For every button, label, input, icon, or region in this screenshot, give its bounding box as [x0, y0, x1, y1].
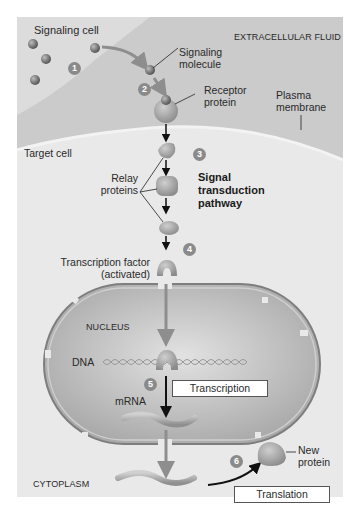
signal-transduction-label-1: Signal — [198, 171, 231, 184]
receptor-protein-label-1: Receptor — [204, 84, 247, 96]
new-protein-label-1: New — [298, 444, 319, 456]
step-badge-1: 1 — [68, 62, 81, 75]
step-badge-4: 4 — [183, 243, 196, 256]
signal-transduction-label-2: transduction — [198, 184, 265, 197]
cytoplasm-label: CYTOPLASM — [33, 478, 89, 490]
transcription-box: Transcription — [172, 380, 268, 397]
signal-transduction-label-3: pathway — [198, 197, 242, 210]
signaling-cell-label: Signaling cell — [34, 24, 99, 36]
signaling-molecule-label-2: molecule — [179, 58, 221, 70]
plasma-membrane-label-1: Plasma — [276, 89, 311, 101]
translation-box: Translation — [234, 486, 330, 503]
step-badge-5: 5 — [144, 378, 157, 391]
receptor-protein-label-2: protein — [204, 96, 236, 108]
target-cell-label: Target cell — [24, 147, 72, 159]
transcription-factor-label-1: Transcription factor — [40, 256, 150, 268]
new-protein-label-2: protein — [298, 456, 330, 468]
mrna-label: mRNA — [115, 395, 146, 407]
cell-signaling-diagram: Signaling cell EXTRACELLULAR FLUID Signa… — [0, 0, 352, 520]
step-badge-2: 2 — [138, 83, 151, 96]
plasma-membrane-label-2: membrane — [276, 101, 326, 113]
nucleus-label: NUCLEUS — [86, 321, 130, 333]
dna-label: DNA — [72, 356, 94, 368]
relay-proteins-label-2: proteins — [96, 184, 138, 196]
signaling-molecule-label-1: Signaling — [179, 46, 222, 58]
transcription-factor-label-2: (activated) — [40, 268, 150, 280]
step-badge-3: 3 — [193, 148, 206, 161]
extracellular-fluid-label: EXTRACELLULAR FLUID — [234, 31, 341, 43]
relay-proteins-label-1: Relay — [96, 172, 138, 184]
step-badge-6: 6 — [230, 455, 243, 468]
